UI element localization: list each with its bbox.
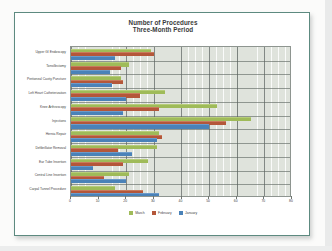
bar-group [71,157,290,171]
value-axis-tick-label: 20 [123,199,127,203]
chart-subtitle: Three-Month Period [15,26,311,33]
value-axis-tick-label: 30 [151,199,155,203]
value-axis-tick-label: 80 [289,199,293,203]
legend-label: February [158,211,172,215]
bar-january[interactable] [71,193,159,197]
bottom-edge-band [0,246,332,251]
value-axis-tick-label: 70 [261,199,265,203]
value-axis-tick-label: 40 [179,199,183,203]
bar-january[interactable] [71,56,115,60]
category-label: Upper GI Endoscopy [18,51,66,54]
right-edge-band [325,0,332,251]
bar-january[interactable] [71,70,110,74]
bar-january[interactable] [71,138,157,142]
value-axis-labels: 01020304050607080 [70,199,291,208]
legend-item-february[interactable]: February [152,211,172,215]
legend-label: January [185,211,197,215]
category-label: Tonsillectomy [18,65,66,68]
bar-group [71,129,290,143]
bar-january[interactable] [71,97,126,101]
category-label: Knee Arthroscopy [18,106,66,109]
legend-item-march[interactable]: March [129,211,145,215]
category-label: Central Line Insertion [18,174,66,177]
category-label: Injections [18,120,66,123]
chart-title: Number of Procedures [15,19,311,26]
category-axis-labels: Upper GI EndoscopyTonsillectomyPeritonea… [18,46,68,197]
value-axis-tick-label: 10 [96,199,100,203]
value-axis-tick-label: 60 [234,199,238,203]
bar-group [71,171,290,185]
bar-group [71,74,290,88]
bar-group [71,47,290,61]
category-label: Defibrillator Removal [18,147,66,150]
bar-january[interactable] [71,152,132,156]
slide-surface: Number of Procedures Three-Month Period … [0,0,332,251]
plot-area [70,46,291,197]
bar-group [71,102,290,116]
bar-january[interactable] [71,166,93,170]
value-axis-tick-label: 50 [206,199,210,203]
category-label: Peritoneal Cavity Puncture [18,78,66,81]
bar-group [71,143,290,157]
chart-card[interactable]: Number of Procedures Three-Month Period … [14,12,310,236]
bar-group [71,116,290,130]
value-axis-tick-label: 0 [69,199,71,203]
plot-wrapper [70,46,291,197]
legend-swatch-icon [129,211,134,214]
chart-title-block: Number of Procedures Three-Month Period [15,19,311,34]
legend-swatch-icon [179,211,184,214]
bars-layer [71,47,290,196]
category-label: Ear Tube Insertion [18,161,66,164]
legend-swatch-icon [152,211,157,214]
bar-group [71,61,290,75]
bar-group [71,88,290,102]
legend-label: March [135,211,144,215]
bar-january[interactable] [71,111,123,115]
bar-january[interactable] [71,83,112,87]
chart-legend: MarchFebruaryJanuary [15,211,311,215]
category-label: Left Heart Catheterization [18,92,66,95]
category-label: Hernia Repair [18,133,66,136]
legend-item-january[interactable]: January [179,211,197,215]
bar-january[interactable] [71,179,126,183]
category-label: Carpal Tunnel Procedure [18,188,66,191]
bar-january[interactable] [71,124,209,128]
